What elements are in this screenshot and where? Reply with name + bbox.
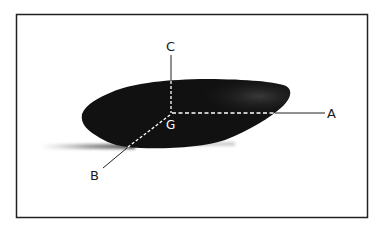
pebble-axes-diagram: C A B G — [0, 0, 381, 231]
axis-c-label: C — [166, 39, 175, 54]
center-g-label: G — [166, 118, 175, 132]
axis-b-label: B — [90, 168, 99, 183]
axis-a-label: A — [327, 106, 336, 121]
